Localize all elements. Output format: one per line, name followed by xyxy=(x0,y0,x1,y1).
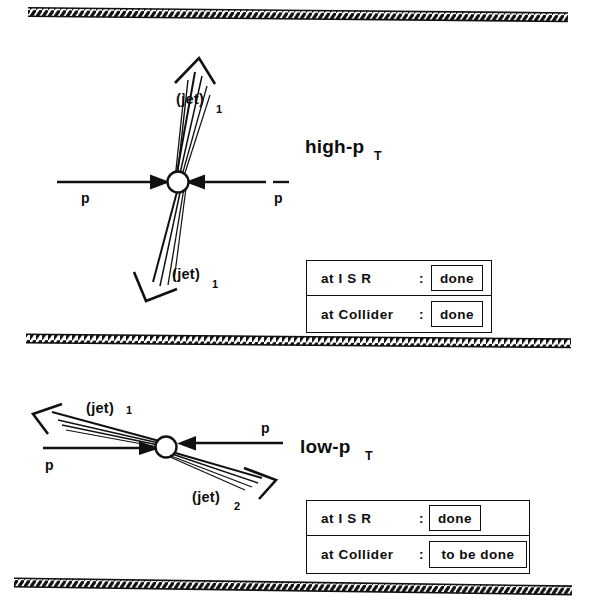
status-row-colon: : xyxy=(419,307,424,322)
status-table-low-pt: at I S R : done at Collider : to be done xyxy=(306,500,530,574)
beam-right-low-label: p xyxy=(261,421,270,435)
beam-left-high xyxy=(57,175,170,190)
jet-down-high-label: (jet) xyxy=(172,267,200,282)
jet-up-high-label: (jet) xyxy=(176,92,204,107)
low-pt-subscript: T xyxy=(365,450,373,463)
band-middle xyxy=(26,333,571,348)
jet-up-high xyxy=(175,58,215,179)
status-value-box: done xyxy=(431,301,483,327)
status-value-box: done xyxy=(429,505,481,531)
panel-low-pt-diagram xyxy=(33,404,283,499)
jet-downright-low xyxy=(170,452,276,499)
beam-right-low xyxy=(177,436,283,451)
beam-left-low xyxy=(43,441,159,455)
table-row: at Collider : to be done xyxy=(307,536,529,573)
jet-downright-low-label: (jet) xyxy=(192,490,220,505)
interaction-vertex-low xyxy=(156,437,177,458)
high-pt-subscript: T xyxy=(374,150,382,163)
table-row: at I S R : done xyxy=(307,501,529,536)
low-pt-label: low-p xyxy=(300,437,351,456)
status-row-label: at Collider xyxy=(321,307,394,322)
status-value-box: to be done xyxy=(429,541,527,568)
interaction-vertex-high xyxy=(168,172,189,193)
jet-down-high xyxy=(134,188,186,301)
band-top xyxy=(28,7,568,22)
jet-downright-low-subscript: 2 xyxy=(234,501,240,512)
table-row: at Collider : done xyxy=(307,296,491,332)
status-row-label: at I S R xyxy=(321,511,372,526)
jet-up-high-subscript: 1 xyxy=(216,104,222,115)
jet-upleft-low-subscript: 1 xyxy=(126,405,132,416)
high-pt-label: high-p xyxy=(305,137,364,156)
jet-down-high-subscript: 1 xyxy=(212,279,218,290)
status-value-box: done xyxy=(431,265,483,291)
status-row-colon: : xyxy=(419,547,424,562)
beam-right-high xyxy=(185,175,289,190)
band-bottom xyxy=(14,577,572,595)
status-row-colon: : xyxy=(419,271,424,286)
status-row-colon: : xyxy=(419,511,424,526)
beam-left-high-label: p xyxy=(81,191,90,205)
status-row-label: at Collider xyxy=(321,547,394,562)
beam-right-high-label: p xyxy=(274,191,283,205)
table-row: at I S R : done xyxy=(307,261,491,296)
beam-left-low-label: p xyxy=(45,458,54,472)
panel-high-pt-diagram xyxy=(57,58,289,301)
figure-canvas: (jet) 1 (jet) 1 p p high-p T (jet) 1 (je… xyxy=(0,0,589,612)
status-table-high-pt: at I S R : done at Collider : done xyxy=(306,260,492,333)
jet-upleft-low-label: (jet) xyxy=(86,401,114,416)
status-row-label: at I S R xyxy=(321,271,372,286)
